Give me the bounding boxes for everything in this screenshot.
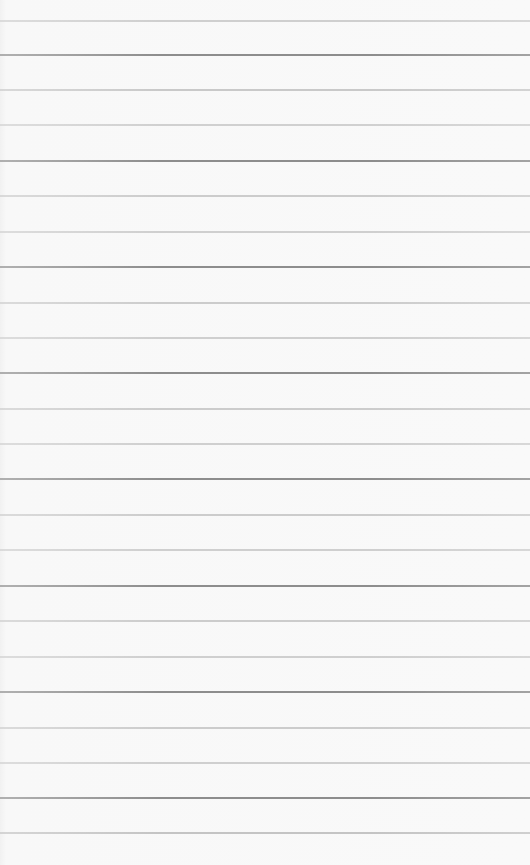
ruled-line <box>0 124 530 126</box>
ruled-line <box>0 337 530 339</box>
ruled-line <box>0 549 530 551</box>
ruled-line <box>0 89 530 91</box>
ruled-line <box>0 302 530 304</box>
ruled-line <box>0 656 530 658</box>
ruled-line <box>0 231 530 233</box>
ruled-line <box>0 585 530 587</box>
ruled-line <box>0 372 530 374</box>
ruled-line <box>0 762 530 764</box>
lined-paper <box>0 0 530 865</box>
ruled-line <box>0 160 530 162</box>
ruled-line <box>0 20 530 22</box>
ruled-line <box>0 797 530 799</box>
ruled-line <box>0 408 530 410</box>
ruled-line <box>0 832 530 834</box>
ruled-line <box>0 443 530 445</box>
ruled-line <box>0 478 530 480</box>
ruled-line <box>0 195 530 197</box>
ruled-line <box>0 54 530 56</box>
ruled-line <box>0 691 530 693</box>
ruled-line <box>0 514 530 516</box>
ruled-line <box>0 266 530 268</box>
ruled-line <box>0 620 530 622</box>
ruled-line <box>0 727 530 729</box>
